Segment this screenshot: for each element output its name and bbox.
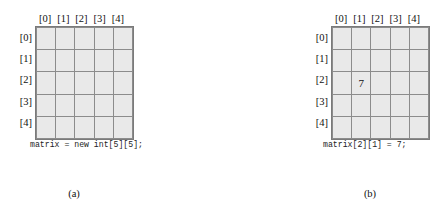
table-row [37, 72, 133, 94]
matrix-cell [75, 28, 94, 50]
matrix-cell [94, 28, 113, 50]
row-header: [2] [12, 69, 35, 90]
matrix-cell [113, 72, 132, 94]
panel-a-code-caption: matrix = new int[5][5]; [30, 140, 143, 151]
matrix-cell [113, 50, 132, 72]
panel-a-column-headers: [0] [1] [2] [3] [4] [36, 14, 127, 25]
matrix-cell [113, 94, 132, 116]
table-row [37, 116, 133, 138]
table-row [37, 28, 133, 50]
row-header: [4] [12, 112, 35, 133]
column-header: [3] [91, 14, 109, 25]
matrix-cell [75, 72, 94, 94]
matrix-cell [56, 94, 75, 116]
table-row [37, 50, 133, 72]
matrix-cell [37, 72, 56, 94]
matrix-cell [37, 28, 56, 50]
table-row [37, 94, 133, 116]
matrix-cell [75, 94, 94, 116]
matrix-cell [94, 50, 113, 72]
row-header: [3] [12, 91, 35, 112]
column-header: [0] [36, 14, 54, 25]
row-header: [0] [12, 27, 35, 48]
matrix-cell [75, 116, 94, 138]
matrix-cell [56, 116, 75, 138]
column-header: [4] [109, 14, 127, 25]
matrix-cell [56, 50, 75, 72]
matrix-cell [56, 72, 75, 94]
panel-a-row-headers: [0] [1] [2] [3] [4] [12, 27, 35, 133]
column-header: [2] [72, 14, 90, 25]
panel-a-matrix-grid [36, 27, 133, 139]
matrix-cell [37, 116, 56, 138]
matrix-cell [37, 94, 56, 116]
matrix-cell [94, 72, 113, 94]
matrix-cell [56, 28, 75, 50]
matrix-cell [94, 94, 113, 116]
matrix-cell [37, 50, 56, 72]
column-header: [1] [54, 14, 72, 25]
matrix-cell [113, 28, 132, 50]
row-header: [1] [12, 48, 35, 69]
figure-panel-a: [0] [1] [2] [3] [4] [0] [1] [2] [3] [4] [0, 0, 148, 215]
figure-panel-c: [0] [1] [2] [0] [1] [2] [3] 1 2 3 4 5 6 … [296, 0, 445, 215]
figure-panel-b: [0] [1] [2] [3] [4] [0] [1] [2] [3] [4] … [148, 0, 296, 215]
matrix-cell [113, 116, 132, 138]
matrix-cell [94, 116, 113, 138]
panel-a-figure-label: (a) [0, 188, 148, 199]
matrix-cell [75, 50, 94, 72]
